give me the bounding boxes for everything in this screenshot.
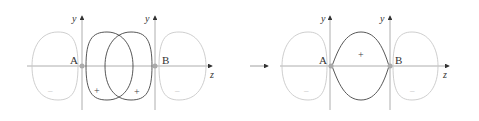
z-axis-label: z bbox=[209, 69, 214, 80]
nucleus-a bbox=[80, 64, 85, 69]
sign-overlap-left: + bbox=[94, 85, 100, 96]
sign-bonding: + bbox=[358, 49, 364, 60]
sign-outer-right: – bbox=[409, 85, 415, 95]
sign-outer-left: – bbox=[303, 85, 309, 95]
nucleus-b bbox=[153, 64, 158, 69]
sign-outer-right: – bbox=[174, 85, 180, 95]
y-axis-a-label: y bbox=[71, 13, 77, 24]
sign-overlap-right: + bbox=[134, 86, 140, 97]
right-diagram: A B y y z – + – bbox=[280, 13, 449, 110]
y-axis-b-label: y bbox=[144, 13, 150, 24]
nucleus-a bbox=[329, 64, 334, 69]
y-axis-b-label: y bbox=[379, 13, 385, 24]
nucleus-a-label: A bbox=[70, 54, 78, 66]
nucleus-b-label: B bbox=[162, 54, 169, 66]
orbital-overlap-figure: A B y y z – + + – A B y y z – + – bbox=[0, 0, 479, 121]
y-axis-a-label: y bbox=[320, 13, 326, 24]
nucleus-b-label: B bbox=[395, 54, 402, 66]
nucleus-b bbox=[388, 64, 393, 69]
z-axis-label: z bbox=[442, 69, 447, 80]
left-diagram: A B y y z – + + – bbox=[27, 13, 214, 110]
nucleus-a-label: A bbox=[319, 54, 327, 66]
sign-outer-left: – bbox=[47, 85, 53, 95]
